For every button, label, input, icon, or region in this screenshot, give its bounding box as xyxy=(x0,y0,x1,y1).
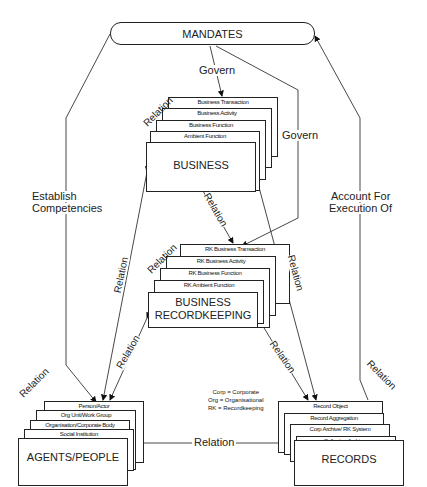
legend-item: RK = Recordkeeping xyxy=(208,404,264,412)
legend-item: Corp = Corporate xyxy=(208,388,264,396)
establish-label-2: Competencies xyxy=(32,203,102,214)
records-label: RECORDS xyxy=(295,453,403,465)
rk-node: BUSINESS RECORDKEEPING xyxy=(148,292,258,328)
agents-label: AGENTS/PEOPLE xyxy=(19,451,127,463)
business-label: BUSINESS xyxy=(147,159,255,171)
legend-item: Org = Organisational xyxy=(208,396,264,404)
business-node: BUSINESS xyxy=(146,142,256,192)
agents-node: AGENTS/PEOPLE xyxy=(18,438,128,486)
account-label-2: Execution Of xyxy=(329,203,392,214)
mandates-node: MANDATES xyxy=(110,22,315,45)
relation-label-agents-records: Relation xyxy=(192,437,236,448)
govern-business-label: Govern xyxy=(199,65,235,76)
records-node: RECORDS xyxy=(294,440,404,486)
mandates-label: MANDATES xyxy=(111,28,314,40)
abbreviation-legend: Corp = Corporate Org = Organisational RK… xyxy=(208,388,264,412)
establish-label-1: Establish xyxy=(32,191,77,202)
govern-rk-label: Govern xyxy=(282,130,318,141)
account-label-1: Account For xyxy=(331,191,390,202)
